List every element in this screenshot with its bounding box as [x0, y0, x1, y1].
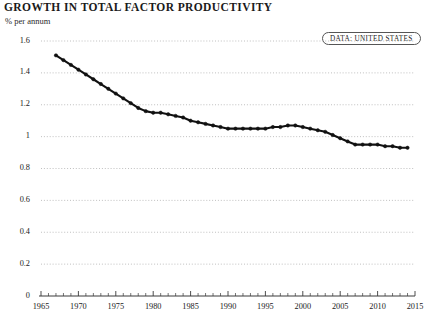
- data-point-marker: [249, 127, 252, 130]
- data-point-marker: [398, 146, 401, 149]
- data-point-marker: [376, 143, 379, 146]
- data-point-marker: [226, 127, 229, 130]
- x-axis-tick-label: 1985: [176, 302, 206, 311]
- data-point-marker: [159, 111, 162, 114]
- data-point-marker: [152, 111, 155, 114]
- data-point-marker: [107, 87, 110, 90]
- y-axis-tick-label: 0.8: [2, 163, 30, 172]
- data-point-marker: [54, 54, 57, 57]
- data-point-marker: [62, 58, 65, 61]
- y-axis-tick-label: 0.2: [2, 259, 30, 268]
- x-axis-tick-label: 1990: [213, 302, 243, 311]
- x-axis-tick-label: 2010: [363, 302, 393, 311]
- data-point-marker: [353, 143, 356, 146]
- y-axis-tick-label: 1.2: [2, 99, 30, 108]
- data-point-marker: [122, 97, 125, 100]
- x-axis-tick-label: 1975: [101, 302, 131, 311]
- data-point-marker: [324, 130, 327, 133]
- data-point-marker: [361, 143, 364, 146]
- data-point-marker: [241, 127, 244, 130]
- data-point-marker: [211, 124, 214, 127]
- y-axis-tick-label: 1.6: [2, 36, 30, 45]
- data-point-marker: [77, 68, 80, 71]
- data-point-marker: [234, 127, 237, 130]
- data-point-marker: [391, 144, 394, 147]
- data-point-marker: [294, 124, 297, 127]
- data-point-marker: [189, 119, 192, 122]
- data-point-marker: [196, 121, 199, 124]
- y-axis-tick-label: 0.6: [2, 195, 30, 204]
- data-point-marker: [166, 113, 169, 116]
- data-point-marker: [368, 143, 371, 146]
- data-point-marker: [84, 73, 87, 76]
- x-axis-tick-label: 2000: [288, 302, 318, 311]
- data-point-marker: [331, 133, 334, 136]
- data-point-marker: [339, 137, 342, 140]
- data-point-marker: [406, 146, 409, 149]
- data-point-marker: [383, 144, 386, 147]
- y-axis-tick-label: 1.4: [2, 67, 30, 76]
- data-point-marker: [279, 125, 282, 128]
- data-point-marker: [271, 125, 274, 128]
- x-axis-tick-label: 2015: [400, 302, 430, 311]
- data-point-marker: [219, 125, 222, 128]
- data-point-marker: [137, 106, 140, 109]
- y-axis-tick-label: 0.4: [2, 227, 30, 236]
- data-point-marker: [204, 122, 207, 125]
- data-point-marker: [181, 116, 184, 119]
- y-axis-tick-label: 0: [2, 291, 30, 300]
- series-line: [56, 55, 408, 147]
- data-point-marker: [286, 124, 289, 127]
- data-point-marker: [264, 127, 267, 130]
- data-point-marker: [114, 92, 117, 95]
- y-axis-tick-label: 1: [2, 131, 30, 140]
- x-axis-tick-label: 1970: [63, 302, 93, 311]
- x-axis-tick-label: 2005: [325, 302, 355, 311]
- data-point-marker: [69, 63, 72, 66]
- data-point-marker: [144, 109, 147, 112]
- data-point-marker: [309, 127, 312, 130]
- data-point-marker: [92, 78, 95, 81]
- data-point-marker: [99, 82, 102, 85]
- x-axis-tick-label: 1995: [250, 302, 280, 311]
- data-point-marker: [301, 125, 304, 128]
- data-point-marker: [174, 114, 177, 117]
- chart-container: GROWTH IN TOTAL FACTOR PRODUCTIVITY % pe…: [0, 0, 431, 321]
- plot-area: [0, 0, 431, 321]
- data-point-marker: [129, 101, 132, 104]
- x-axis-tick-label: 1965: [26, 302, 56, 311]
- x-axis-tick-label: 1980: [138, 302, 168, 311]
- data-point-marker: [256, 127, 259, 130]
- data-point-marker: [316, 129, 319, 132]
- data-point-marker: [346, 140, 349, 143]
